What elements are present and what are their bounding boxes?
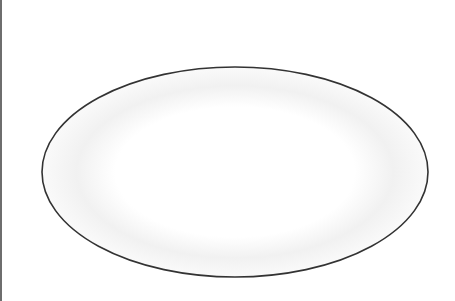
drawing-canvas [0, 0, 455, 301]
shape-layer [0, 0, 455, 301]
oval-shape[interactable] [42, 67, 428, 277]
